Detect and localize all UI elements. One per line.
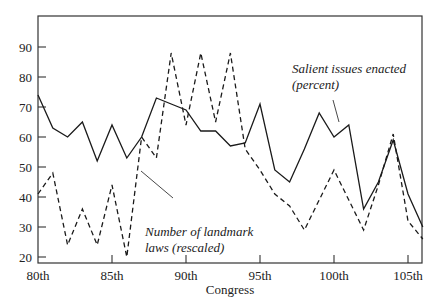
x-axis-title: Congress (206, 282, 254, 297)
landmark-laws-label: Number of landmark (144, 224, 254, 239)
x-tick-label: 90th (174, 268, 198, 283)
x-tick-label: 100th (319, 268, 349, 283)
x-tick-label: 95th (248, 268, 272, 283)
y-tick-label: 50 (19, 160, 32, 175)
landmark-laws-label: laws (rescaled) (145, 240, 224, 255)
salient-issues-label: Salient issues enacted (292, 61, 407, 76)
x-axis: 80th85th90th95th100th105th (26, 255, 423, 283)
salient-issues-leader (333, 100, 339, 122)
x-tick-label: 105th (393, 268, 423, 283)
x-tick-label: 80th (26, 268, 50, 283)
y-tick-label: 80 (19, 70, 32, 85)
landmark-laws-leader (141, 171, 173, 198)
y-tick-label: 90 (19, 40, 32, 55)
salient-issues-line (38, 95, 423, 227)
annotations: Salient issues enacted(percent)Number of… (141, 61, 407, 255)
y-tick-label: 60 (19, 130, 32, 145)
x-tick-label: 85th (100, 268, 124, 283)
y-tick-label: 20 (19, 250, 32, 265)
y-tick-label: 30 (19, 220, 32, 235)
y-tick-label: 40 (19, 190, 32, 205)
chart: 2030405060708090 80th85th90th95th100th10… (0, 0, 437, 307)
y-axis: 2030405060708090 (19, 40, 46, 265)
salient-issues-label: (percent) (292, 77, 339, 92)
y-tick-label: 70 (19, 100, 32, 115)
